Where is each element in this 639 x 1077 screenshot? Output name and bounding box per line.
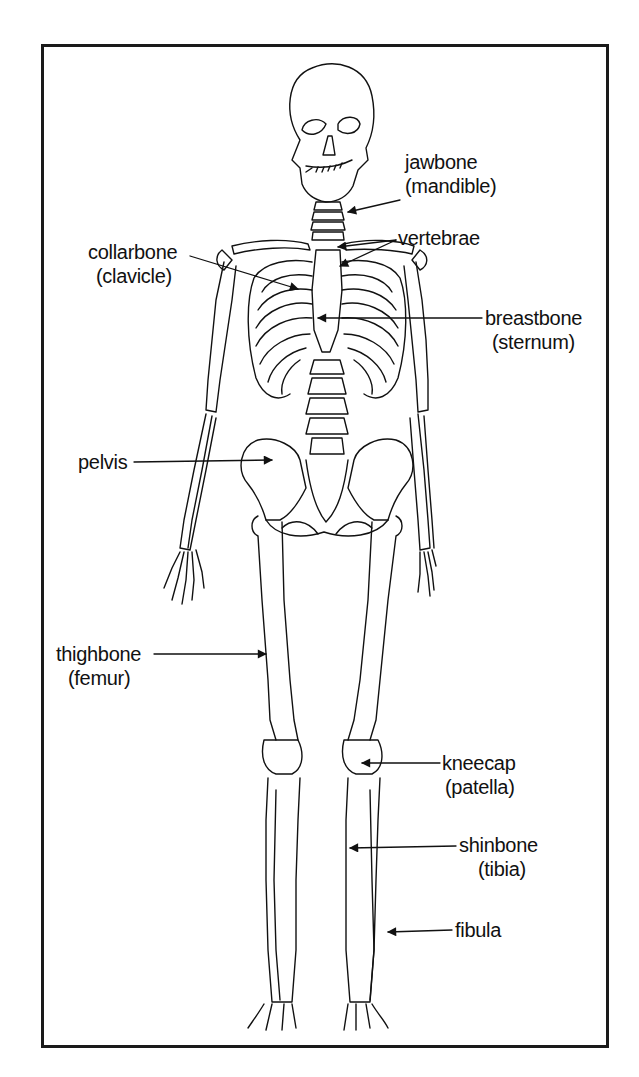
label-kneecap-scientific: (patella) bbox=[442, 775, 516, 799]
left-arm bbox=[164, 262, 236, 604]
label-shinbone: shinbone (tibia) bbox=[459, 833, 538, 881]
collarbone-pointer bbox=[190, 256, 298, 289]
right-arm bbox=[404, 262, 436, 596]
cervical-vertebrae bbox=[311, 202, 345, 240]
label-shinbone-scientific: (tibia) bbox=[459, 857, 538, 881]
label-thighbone: thighbone (femur) bbox=[56, 642, 141, 690]
label-shinbone-common: shinbone bbox=[459, 834, 538, 856]
label-fibula: fibula bbox=[455, 918, 501, 942]
jawbone-pointer bbox=[348, 200, 400, 212]
skeleton-illustration bbox=[0, 0, 639, 1077]
label-breastbone: breastbone (sternum) bbox=[485, 306, 582, 354]
label-fibula-common: fibula bbox=[455, 919, 501, 941]
label-collarbone: collarbone (clavicle) bbox=[88, 240, 177, 288]
label-pelvis-common: pelvis bbox=[78, 451, 127, 473]
label-collarbone-common: collarbone bbox=[88, 241, 177, 263]
label-breastbone-scientific: (sternum) bbox=[485, 330, 582, 354]
sternum bbox=[312, 250, 342, 352]
fibula-pointer bbox=[388, 930, 452, 932]
label-vertebrae-common: vertebrae bbox=[398, 227, 480, 249]
ribcage-right bbox=[342, 261, 406, 398]
left-leg bbox=[248, 516, 302, 1030]
label-pelvis: pelvis bbox=[78, 450, 127, 474]
label-vertebrae: vertebrae bbox=[398, 226, 480, 250]
shoulder-girdle bbox=[217, 240, 427, 270]
label-kneecap-common: kneecap bbox=[442, 752, 516, 774]
lumbar-spine bbox=[306, 360, 348, 454]
label-breastbone-common: breastbone bbox=[485, 307, 582, 329]
label-jawbone-common: jawbone bbox=[405, 151, 477, 173]
skull bbox=[290, 64, 374, 202]
ribcage-left bbox=[248, 261, 312, 398]
label-pointers bbox=[134, 200, 482, 932]
shinbone-pointer bbox=[350, 846, 456, 848]
right-leg bbox=[343, 516, 403, 1030]
label-jawbone: jawbone (mandible) bbox=[405, 150, 496, 198]
label-kneecap: kneecap (patella) bbox=[442, 751, 516, 799]
label-thighbone-scientific: (femur) bbox=[56, 666, 141, 690]
label-thighbone-common: thighbone bbox=[56, 643, 141, 665]
label-jawbone-scientific: (mandible) bbox=[405, 174, 496, 198]
label-collarbone-scientific: (clavicle) bbox=[88, 264, 177, 288]
